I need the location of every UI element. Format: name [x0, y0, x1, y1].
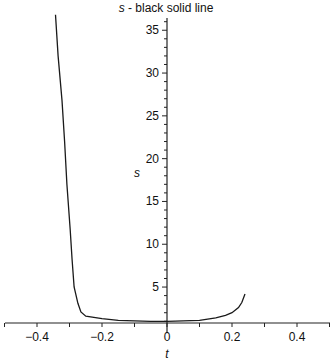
x-ticks: −0.4−0.200.20.4 — [5, 323, 330, 344]
chart-title: s - black solid line — [119, 1, 214, 15]
axes — [5, 18, 330, 333]
y-tick-label: 35 — [146, 23, 160, 37]
y-ticks: 5101520253035 — [146, 22, 167, 322]
y-tick-label: 25 — [146, 109, 160, 123]
y-tick-label: 30 — [146, 66, 160, 80]
y-tick-label: 15 — [146, 194, 160, 208]
series-s-line — [56, 15, 246, 322]
line-chart: s - black solid line −0.4−0.200.20.4 510… — [0, 0, 335, 364]
x-axis-label: t — [165, 347, 169, 361]
y-tick-label: 10 — [146, 237, 160, 251]
x-tick-label: 0.4 — [289, 330, 306, 344]
y-axis-label: s — [134, 166, 140, 180]
x-tick-label: 0 — [164, 330, 171, 344]
x-tick-label: −0.2 — [90, 330, 114, 344]
x-tick-label: −0.4 — [25, 330, 49, 344]
y-tick-label: 20 — [146, 152, 160, 166]
y-tick-label: 5 — [152, 280, 159, 294]
x-tick-label: 0.2 — [224, 330, 241, 344]
